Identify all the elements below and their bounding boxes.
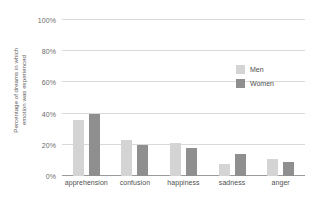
bar-group-apprehension — [62, 20, 111, 176]
legend-swatch-men-icon — [236, 65, 245, 74]
y-tick-label: 100% — [0, 17, 56, 24]
y-tick-label: 60% — [0, 79, 56, 86]
bar-apprehension-women — [89, 114, 100, 176]
bar-group-happiness — [159, 20, 208, 176]
x-axis-labels: apprehensionconfusionhappinesssadnessang… — [62, 179, 305, 186]
x-tick-label-anger: anger — [256, 179, 305, 186]
x-tick-label-sadness: sadness — [208, 179, 257, 186]
bar-group-sadness — [208, 20, 257, 176]
y-tick-label: 0% — [0, 173, 56, 180]
legend-label: Women — [250, 80, 274, 87]
bar-anger-women — [283, 162, 294, 176]
x-tick-label-apprehension: apprehension — [62, 179, 111, 186]
bar-group-anger — [256, 20, 305, 176]
y-tick-label: 80% — [0, 48, 56, 55]
y-tick-label: 20% — [0, 141, 56, 148]
y-tick-label: 40% — [0, 110, 56, 117]
legend-item-women: Women — [236, 76, 306, 90]
plot-area — [62, 20, 305, 176]
bar-sadness-women — [235, 154, 246, 176]
legend-swatch-women-icon — [236, 79, 245, 88]
bar-anger-men — [267, 159, 278, 176]
bar-happiness-women — [186, 148, 197, 176]
y-axis-ticks: 0%20%40%60%80%100% — [0, 20, 58, 176]
bar-group-confusion — [111, 20, 160, 176]
bars-layer — [62, 20, 305, 176]
bar-confusion-men — [121, 140, 132, 176]
bar-sadness-men — [219, 164, 230, 176]
x-tick-label-confusion: confusion — [111, 179, 160, 186]
x-tick-label-happiness: happiness — [159, 179, 208, 186]
bar-chart: Percentage of dreams in which emotion wa… — [0, 0, 314, 208]
bar-apprehension-men — [73, 120, 84, 176]
bar-confusion-women — [137, 145, 148, 176]
bar-happiness-men — [170, 143, 181, 176]
chart-legend: MenWomen — [236, 62, 306, 90]
legend-label: Men — [250, 66, 264, 73]
legend-item-men: Men — [236, 62, 306, 76]
